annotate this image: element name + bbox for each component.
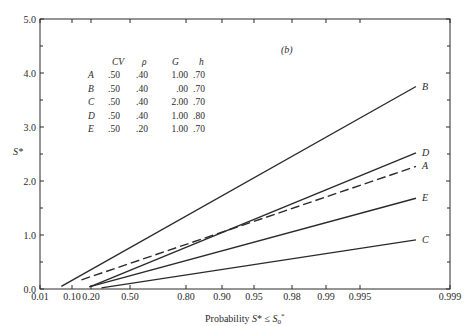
x-tick-label: 0.98 — [283, 291, 301, 302]
y-axis-label: S* — [13, 146, 23, 157]
table-cell: .20 — [136, 124, 148, 134]
table-cell: .70 — [193, 70, 205, 80]
x-tick-label: 0.995 — [349, 291, 372, 302]
table-cell: .00 — [176, 84, 188, 94]
table-cell: .80 — [193, 111, 205, 121]
table-cell: .40 — [136, 111, 148, 121]
table-cell: .50 — [108, 111, 120, 121]
series-line-C — [101, 240, 416, 288]
x-tick-label: 0.01 — [31, 291, 49, 302]
probability-chart: 0.01.02.03.04.05.0 0.010.100.200.500.800… — [0, 0, 470, 326]
y-tick-label: 2.0 — [24, 176, 37, 187]
y-tick-label: 5.0 — [24, 14, 37, 25]
y-tick-label: 3.0 — [24, 122, 37, 133]
table-cell: .40 — [136, 84, 148, 94]
table-row-key: B — [88, 84, 94, 94]
x-tick-label: 0.99 — [317, 291, 335, 302]
series-line-D — [91, 153, 416, 286]
table-header: G — [172, 57, 179, 67]
table-cell: .50 — [108, 97, 120, 107]
series-label-D: D — [421, 147, 430, 158]
series-label-A: A — [421, 160, 429, 171]
x-tick-label: 0.999 — [439, 291, 462, 302]
x-tick-label: 0.90 — [213, 291, 231, 302]
table-cell: 2.00 — [171, 97, 188, 107]
panel-label: (b) — [281, 44, 293, 56]
x-tick-label: 0.50 — [121, 291, 139, 302]
x-tick-label: 0.95 — [245, 291, 263, 302]
table-row-key: A — [87, 70, 94, 80]
table-row-key: C — [88, 97, 95, 107]
table-header: CV — [112, 57, 125, 67]
table-cell: .50 — [108, 84, 120, 94]
table-cell: .50 — [108, 124, 120, 134]
table-cell: 1.00 — [171, 124, 188, 134]
table-header: ρ — [141, 57, 147, 67]
table-cell: .70 — [193, 84, 205, 94]
table-row-key: D — [87, 111, 95, 121]
y-axis-ticks: 0.01.02.03.04.05.0 — [24, 14, 451, 295]
series-line-A — [82, 166, 417, 279]
x-axis-label: Probability S* ≤ S0* — [205, 312, 285, 326]
table-header: h — [199, 57, 204, 67]
table-cell: .70 — [193, 124, 205, 134]
plot-frame — [40, 19, 450, 289]
x-tick-label: 0.20 — [82, 291, 100, 302]
table-cell: .50 — [108, 70, 120, 80]
table-row-key: E — [87, 124, 94, 134]
x-tick-label: 0.10 — [63, 291, 81, 302]
plot-border — [40, 19, 450, 289]
table-cell: 1.00 — [171, 111, 188, 121]
table-cell: 1.00 — [171, 70, 188, 80]
y-tick-label: 1.0 — [24, 230, 37, 241]
x-tick-label: 0.80 — [177, 291, 195, 302]
series-label-C: C — [422, 234, 429, 245]
y-tick-label: 4.0 — [24, 68, 37, 79]
table-cell: .70 — [193, 97, 205, 107]
table-cell: .40 — [136, 70, 148, 80]
parameter-table: CVρGhA.50.401.00.70B.50.40.00.70C.50.402… — [87, 57, 205, 134]
table-cell: .40 — [136, 97, 148, 107]
series-label-E: E — [421, 192, 428, 203]
series-label-B: B — [422, 81, 428, 92]
